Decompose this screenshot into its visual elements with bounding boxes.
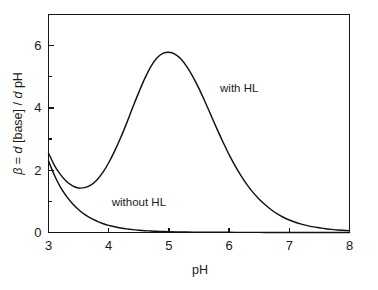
x-tick-label: 8 [346, 238, 353, 253]
y-axis-tick-labels: 0246 [34, 38, 41, 240]
buffer-capacity-chart: 345678 0246 with HLwithout HL pH β = d [… [0, 0, 378, 290]
x-tick-label: 5 [165, 238, 172, 253]
y-axis-title: β = d [base] / d pH [11, 72, 25, 176]
x-axis-title: pH [192, 263, 208, 277]
x-tick-label: 3 [45, 238, 52, 253]
data-series-group [49, 52, 350, 232]
data-curve [49, 161, 350, 233]
y-tick-label: 0 [34, 225, 41, 240]
data-curve [49, 52, 350, 230]
plot-frame [49, 15, 350, 233]
y-tick-label: 4 [34, 100, 41, 115]
y-axis-ticks [49, 15, 55, 233]
x-tick-label: 7 [286, 238, 293, 253]
x-tick-label: 6 [225, 238, 232, 253]
x-tick-label: 4 [105, 238, 112, 253]
series-annotation: with HL [219, 82, 259, 94]
series-annotation: without HL [111, 196, 167, 208]
y-tick-label: 6 [34, 38, 41, 53]
x-axis-tick-labels: 345678 [45, 238, 353, 253]
y-tick-label: 2 [34, 163, 41, 178]
series-annotations: with HLwithout HL [111, 82, 259, 208]
figure-container: 345678 0246 with HLwithout HL pH β = d [… [0, 0, 378, 290]
